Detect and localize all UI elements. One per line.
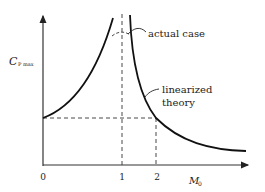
- subsonic-curve: [43, 18, 113, 118]
- linearized-label: linearized: [162, 84, 213, 95]
- x-tick-2: 2: [154, 172, 160, 182]
- y-axis-label: C: [9, 55, 18, 68]
- theory-label: theory: [162, 97, 195, 108]
- x-axis-subscript: 0: [198, 180, 202, 187]
- x-tick-1: 1: [119, 172, 125, 182]
- x-tick-0: 0: [40, 172, 46, 182]
- y-axis-subscript: P max: [18, 61, 34, 67]
- actual-case-label: actual case: [148, 28, 205, 39]
- linearized-theory-leader: [145, 89, 159, 97]
- actual-case-curve: [112, 32, 130, 36]
- cp-max-vs-mach-diagram: actual case linearized theory C P max M …: [0, 0, 265, 192]
